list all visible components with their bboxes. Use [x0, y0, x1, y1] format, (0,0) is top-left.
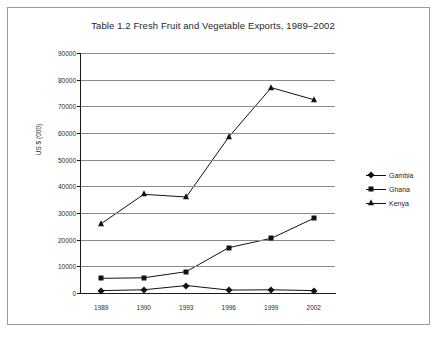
y-axis-tick-label: 30000 [32, 210, 76, 217]
data-point-ghana-1993 [184, 269, 189, 274]
x-axis-line [80, 293, 336, 294]
legend-marker-triangle-icon [366, 198, 386, 208]
series-line-gambia [101, 286, 314, 291]
chart-title: Table 1.2 Fresh Fruit and Vegetable Expo… [68, 20, 358, 31]
data-point-ghana-1990 [141, 275, 146, 280]
y-axis-tick-mark [77, 240, 80, 241]
series-line-ghana [101, 218, 314, 278]
y-axis-tick-mark [77, 53, 80, 54]
y-axis-tick-mark [77, 266, 80, 267]
series-line-kenya [101, 88, 314, 224]
legend-label: Gambia [386, 172, 414, 179]
series-lines [80, 53, 335, 293]
plot-area [80, 53, 335, 293]
y-axis-tick-mark [77, 133, 80, 134]
x-axis-tick-label: 1993 [166, 304, 206, 311]
legend-item-gambia[interactable]: Gambia [366, 168, 428, 182]
gridline [80, 186, 335, 187]
gridline [80, 133, 335, 134]
y-axis-tick-labels: 0100002000030000400005000060000700008000… [30, 53, 76, 294]
data-point-kenya-1990 [141, 191, 147, 197]
gridline [80, 213, 335, 214]
gridline [80, 160, 335, 161]
data-point-ghana-1996 [226, 245, 231, 250]
y-axis-tick-label: 0 [32, 290, 76, 297]
data-point-ghana-2002 [311, 216, 316, 221]
data-point-kenya-1999 [268, 84, 274, 90]
y-axis-tick-mark [77, 186, 80, 187]
gridline [80, 53, 335, 54]
legend-marker-diamond-icon [366, 170, 386, 180]
x-axis-tick-label: 1989 [81, 304, 121, 311]
chart-figure: Table 1.2 Fresh Fruit and Vegetable Expo… [7, 7, 430, 325]
x-axis-tick-label: 1996 [209, 304, 249, 311]
y-axis-tick-label: 80000 [32, 76, 76, 83]
legend-item-kenya[interactable]: Kenya [366, 196, 428, 210]
data-point-ghana-1989 [99, 276, 104, 281]
chart-legend: GambiaGhanaKenya [366, 168, 428, 210]
gridline [80, 240, 335, 241]
y-axis-tick-label: 20000 [32, 236, 76, 243]
y-axis-tick-mark [77, 293, 80, 294]
legend-item-ghana[interactable]: Ghana [366, 182, 428, 196]
legend-marker-square-icon [366, 184, 386, 194]
y-axis-tick-mark [77, 106, 80, 107]
data-point-kenya-2002 [311, 96, 317, 102]
x-axis-tick-label: 2002 [294, 304, 334, 311]
legend-label: Ghana [386, 186, 410, 193]
y-axis-tick-label: 40000 [32, 183, 76, 190]
data-point-kenya-1993 [183, 193, 189, 199]
y-axis-tick-label: 10000 [32, 263, 76, 270]
y-axis-line [80, 53, 81, 294]
data-point-ghana-1999 [269, 236, 274, 241]
y-axis-tick-label: 70000 [32, 103, 76, 110]
gridline [80, 80, 335, 81]
legend-label: Kenya [386, 200, 409, 207]
y-axis-tick-label: 50000 [32, 156, 76, 163]
data-point-kenya-1996 [226, 133, 232, 139]
y-axis-tick-label: 90000 [32, 50, 76, 57]
x-axis-tick-label: 1990 [124, 304, 164, 311]
gridline [80, 266, 335, 267]
data-point-kenya-1989 [98, 220, 104, 226]
y-axis-tick-mark [77, 160, 80, 161]
y-axis-tick-label: 60000 [32, 130, 76, 137]
x-axis-tick-label: 1999 [251, 304, 291, 311]
y-axis-tick-mark [77, 80, 80, 81]
y-axis-tick-mark [77, 213, 80, 214]
gridline [80, 106, 335, 107]
